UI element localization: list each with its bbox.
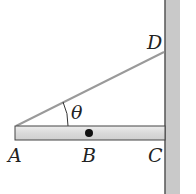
- label-c: C: [148, 144, 163, 166]
- cable-ad: [16, 52, 164, 126]
- label-b: B: [81, 144, 96, 166]
- point-b-dot: [85, 129, 93, 137]
- label-a: A: [6, 144, 22, 166]
- label-d: D: [146, 31, 162, 53]
- theta-arc: [63, 102, 68, 126]
- beam-cable-wall-diagram: θ A B C D: [0, 0, 196, 194]
- wall: [165, 0, 180, 194]
- diagram-canvas: θ A B C D: [0, 0, 196, 194]
- label-theta: θ: [71, 101, 83, 123]
